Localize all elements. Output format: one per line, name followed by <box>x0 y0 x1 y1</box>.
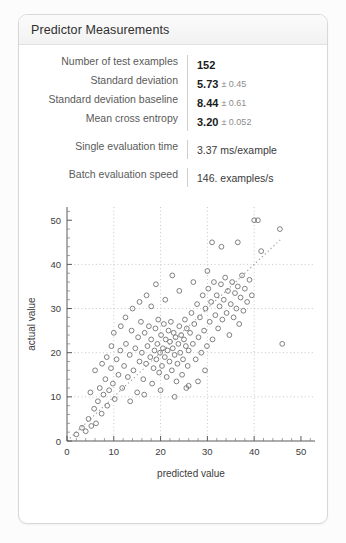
y-axis-title: actual value <box>26 297 37 351</box>
scatter-point <box>206 286 211 291</box>
scatter-point <box>149 337 154 342</box>
scatter-point <box>141 377 146 382</box>
table-row: Number of test examples152 <box>19 55 327 74</box>
scatter-point <box>237 322 242 327</box>
measurement-label: Number of test examples <box>19 55 187 67</box>
y-axis-tick-label: 20 <box>50 347 61 358</box>
measurement-value-main: 5.73 <box>197 78 218 90</box>
scatter-point <box>83 429 88 434</box>
scatter-point <box>114 357 119 362</box>
scatter-point <box>99 411 104 416</box>
scatter-point <box>169 368 174 373</box>
table-row: Standard deviation5.73± 0.45 <box>19 74 327 93</box>
predicted-vs-actual-scatter: 0102030405001020304050predicted valueact… <box>19 193 327 493</box>
measurement-value-error: ± 0.052 <box>221 117 251 127</box>
x-axis-title: predicted value <box>157 468 225 479</box>
scatter-point <box>103 377 108 382</box>
scatter-point <box>112 397 117 402</box>
scatter-point <box>120 386 125 391</box>
scatter-point <box>193 357 198 362</box>
measurements-table: Number of test examples152Standard devia… <box>19 45 327 187</box>
measurement-value: 8.44± 0.61 <box>187 93 246 112</box>
scatter-point <box>123 315 128 320</box>
scatter-point <box>200 293 205 298</box>
measurement-value: 146. examples/s <box>187 168 273 187</box>
scatter-point <box>131 368 136 373</box>
x-axis-tick-label: 30 <box>202 446 213 457</box>
scatter-point <box>135 390 140 395</box>
y-axis-tick-label: 10 <box>50 391 61 402</box>
scatter-point <box>191 280 196 285</box>
scatter-point <box>89 424 94 429</box>
scatter-point <box>196 335 201 340</box>
scatter-point <box>118 324 123 329</box>
scatter-point <box>158 388 163 393</box>
scatter-point <box>249 293 254 298</box>
page-title: Predictor Measurements <box>31 23 169 37</box>
measurement-value: 152 <box>187 55 215 74</box>
scatter-points-group <box>74 218 285 437</box>
scatter-point <box>259 249 264 254</box>
scatter-point <box>235 240 240 245</box>
scatter-point <box>220 317 225 322</box>
x-axis-tick-label: 20 <box>155 446 166 457</box>
scatter-point <box>109 366 114 371</box>
measurement-label: Batch evaluation speed <box>19 168 187 180</box>
scatter-point <box>128 399 133 404</box>
scatter-point <box>137 300 142 305</box>
scatter-point <box>223 275 228 280</box>
scatter-point <box>280 341 285 346</box>
scatter-point <box>168 319 173 324</box>
scatter-point <box>238 295 243 300</box>
scatter-point <box>155 341 160 346</box>
scatter-point <box>159 333 164 338</box>
scatter-point <box>199 350 204 355</box>
scatter-point <box>139 319 144 324</box>
measurement-value-main: 152 <box>197 59 215 71</box>
measurement-label: Single evaluation time <box>19 140 187 152</box>
scatter-point <box>170 273 175 278</box>
scatter-point <box>118 348 123 353</box>
scatter-point <box>196 379 201 384</box>
y-axis-tick-label: 0 <box>56 436 61 447</box>
scatter-point <box>163 297 168 302</box>
scatter-point <box>226 288 231 293</box>
scatter-point <box>233 291 238 296</box>
scatter-point <box>172 353 177 358</box>
scatter-point <box>164 375 169 380</box>
scatter-point <box>154 357 159 362</box>
scatter-point <box>176 341 181 346</box>
scatter-point <box>129 328 134 333</box>
measurement-value-main: 8.44 <box>197 97 218 109</box>
scatter-point <box>245 300 250 305</box>
scatter-point <box>209 300 214 305</box>
scatter-point <box>166 328 171 333</box>
scatter-point <box>278 227 283 232</box>
scatter-point <box>127 353 132 358</box>
scatter-point <box>133 346 138 351</box>
x-axis-tick-label: 0 <box>64 446 69 457</box>
scatter-point <box>221 297 226 302</box>
scatter-point <box>100 361 105 366</box>
scatter-point <box>125 375 130 380</box>
scatter-point <box>109 344 114 349</box>
measurement-value: 5.73± 0.45 <box>187 74 246 93</box>
scatter-point <box>150 381 155 386</box>
scatter-point <box>185 364 190 369</box>
scatter-point <box>142 330 147 335</box>
x-axis-tick-label: 50 <box>296 446 307 457</box>
predictor-measurements-card: Predictor Measurements Number of test ex… <box>18 14 328 524</box>
scatter-point <box>203 368 208 373</box>
scatter-point <box>183 344 188 349</box>
scatter-point <box>104 355 109 360</box>
scatter-point <box>148 355 153 360</box>
scatter-point <box>105 403 110 408</box>
scatter-point <box>167 359 172 364</box>
measurement-value-error: ± 0.61 <box>221 98 246 108</box>
scatter-point <box>154 282 159 287</box>
scatter-point <box>192 322 197 327</box>
scatter-point <box>153 326 158 331</box>
scatter-point <box>205 344 210 349</box>
scatter-point <box>107 388 112 393</box>
scatter-point <box>95 399 100 404</box>
